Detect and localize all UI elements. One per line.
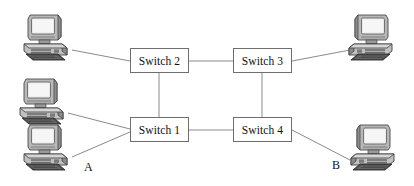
crt-monitor-icon <box>28 125 61 154</box>
link-switch4-to-host-bottom-right <box>292 130 350 160</box>
switch-node-switch2[interactable]: Switch 2 <box>130 48 189 73</box>
desktop-case-icon <box>351 154 394 165</box>
crt-monitor-icon <box>28 15 61 44</box>
keyboard-icon <box>351 54 390 60</box>
host-computer-host-bottom-left[interactable] <box>18 122 74 172</box>
crt-monitor-icon <box>355 15 388 44</box>
keyboard-icon <box>26 164 65 170</box>
desktop-case-icon <box>24 154 67 165</box>
switch-label: Switch 3 <box>242 55 283 67</box>
crt-monitor-icon <box>24 79 57 108</box>
switch-label: Switch 4 <box>242 124 283 136</box>
switch-label: Switch 2 <box>139 55 180 67</box>
links-group <box>68 50 350 160</box>
switch-node-switch3[interactable]: Switch 3 <box>233 48 292 73</box>
link-host-top-left-to-switch2 <box>72 50 130 61</box>
desktop-case-icon <box>349 44 392 55</box>
host-endpoint-label-b: B <box>332 158 340 173</box>
link-host-mid-left-to-switch1 <box>68 113 130 129</box>
host-endpoint-label-a: A <box>84 160 93 175</box>
switch-node-switch1[interactable]: Switch 1 <box>130 117 189 142</box>
switch-node-switch4[interactable]: Switch 4 <box>233 117 292 142</box>
switch-label: Switch 1 <box>139 124 180 136</box>
host-computer-host-bottom-right[interactable] <box>344 122 400 172</box>
network-diagram: Switch 1Switch 2Switch 3Switch 4 <box>0 0 414 186</box>
keyboard-icon <box>353 164 392 170</box>
host-computer-host-top-left[interactable] <box>18 12 74 62</box>
desktop-case-icon <box>20 108 63 119</box>
keyboard-icon <box>26 54 65 60</box>
desktop-case-icon <box>24 44 67 55</box>
host-computer-host-mid-left[interactable] <box>14 76 70 126</box>
host-computer-host-top-right[interactable] <box>342 12 398 62</box>
link-host-bottom-left-to-switch1 <box>72 132 130 157</box>
crt-monitor-icon <box>357 125 390 154</box>
